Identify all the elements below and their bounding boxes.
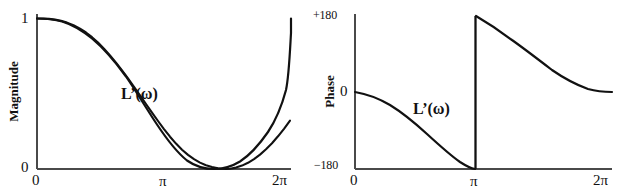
magnitude-ytick-0: 0 xyxy=(21,160,29,175)
magnitude-xtick-pi: π xyxy=(159,174,167,189)
magnitude-xtick-2pi: 2π xyxy=(272,173,287,188)
phase-ytick-minus180: −180 xyxy=(314,159,338,171)
phase-ytick-plus180: +180 xyxy=(313,9,337,21)
phase-curve-branch-2 xyxy=(476,16,612,92)
phase-xtick-pi: π xyxy=(470,174,478,189)
magnitude-plot-panel: 1 0 0 π 2π Magnitude L’(ω) xyxy=(0,0,310,196)
phase-curve-annotation: L’(ω) xyxy=(413,101,450,117)
magnitude-y-axis-title: Magnitude xyxy=(7,56,20,128)
magnitude-curve-full xyxy=(37,19,291,170)
phase-xtick-2pi: 2π xyxy=(593,173,608,188)
phase-y-axis-title: Phase xyxy=(323,66,336,118)
magnitude-ytick-1: 1 xyxy=(21,11,29,26)
phase-xtick-0: 0 xyxy=(350,173,358,188)
phase-ytick-0: 0 xyxy=(340,84,348,99)
phase-plot-canvas xyxy=(310,0,621,196)
magnitude-curve-annotation: L’(ω) xyxy=(121,86,158,102)
figure-bode-plots: 1 0 0 π 2π Magnitude L’(ω) +180 0 −180 0 xyxy=(0,0,621,196)
magnitude-xtick-0: 0 xyxy=(32,173,40,188)
phase-plot-panel: +180 0 −180 0 π 2π Phase L’(ω) xyxy=(310,0,621,196)
